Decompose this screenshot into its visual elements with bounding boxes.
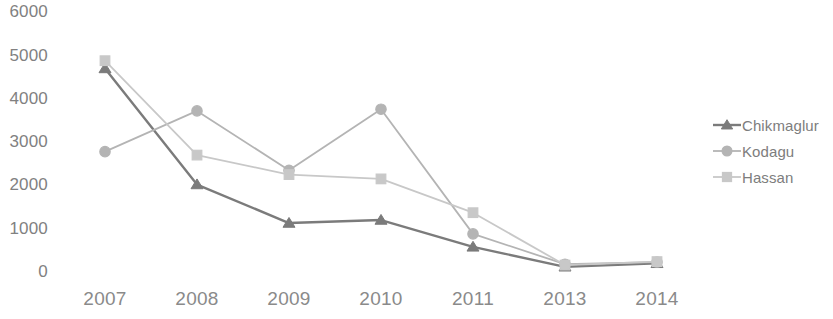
line-chart: 6000500040003000200010000 20072008200920… [0,0,833,319]
series-line [105,109,657,264]
data-point [376,174,386,184]
y-tick-label: 3000 [0,132,48,152]
plot-area [0,0,833,319]
data-point [192,106,202,116]
legend-label: Kodagu [742,143,794,160]
y-tick-label: 0 [0,262,48,282]
legend-item-kodagu[interactable]: Kodagu [712,138,833,164]
y-tick-label: 2000 [0,175,48,195]
data-point [468,208,478,218]
data-point [468,229,478,239]
x-tick-label: 2014 [612,288,702,310]
y-tick-label: 5000 [0,46,48,66]
data-point [284,170,294,180]
x-tick-label: 2011 [428,288,518,310]
x-tick-label: 2007 [60,288,150,310]
y-tick-label: 4000 [0,89,48,109]
data-point [100,146,110,156]
data-point [100,56,110,66]
data-point [192,150,202,160]
series-hassan [100,56,662,270]
series-kodagu [100,104,662,269]
legend-label: Hassan [742,169,793,186]
data-point [376,104,386,114]
series-line [105,61,657,265]
x-tick-label: 2010 [336,288,426,310]
data-point [652,257,662,267]
chart-legend: ChikmaglurKodaguHassan [712,112,833,190]
circle-marker-icon [712,142,742,160]
series-chikmaglur [99,63,663,271]
data-point [560,260,570,270]
square-marker-icon [712,168,742,186]
x-tick-label: 2013 [520,288,610,310]
legend-item-hassan[interactable]: Hassan [712,164,833,190]
triangle-marker-icon [712,116,742,134]
y-tick-label: 1000 [0,219,48,239]
legend-label: Chikmaglur [742,117,819,134]
legend-item-chikmaglur[interactable]: Chikmaglur [712,112,833,138]
x-tick-label: 2008 [152,288,242,310]
series-line [105,68,657,266]
x-tick-label: 2009 [244,288,334,310]
y-tick-label: 6000 [0,2,48,22]
